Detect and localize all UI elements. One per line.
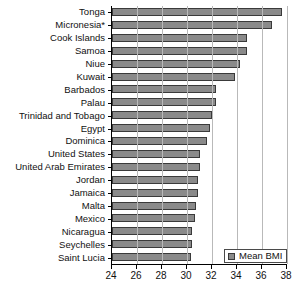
axis-tick	[108, 219, 112, 220]
value-axis-tick-label: 32	[205, 270, 216, 281]
bar-row	[112, 200, 287, 213]
bar-row	[112, 45, 287, 58]
bar	[112, 124, 210, 132]
category-label: Jordan	[76, 175, 105, 185]
bar	[112, 214, 195, 222]
axis-tick	[108, 180, 112, 181]
bar-row	[112, 212, 287, 225]
bar	[112, 189, 198, 197]
axis-tick	[108, 103, 112, 104]
axis-tick	[108, 25, 112, 26]
gridline	[287, 6, 288, 264]
chart-footnote	[2, 291, 292, 300]
bar	[112, 73, 235, 81]
bar-rows	[112, 6, 287, 264]
category-label: Barbados	[64, 85, 105, 95]
axis-tick	[108, 90, 112, 91]
category-label: Nicaragua	[62, 227, 105, 237]
bmi-bar-chart: TongaMicronesia*Cook IslandsSamoaNiueKuw…	[0, 0, 296, 300]
bar	[112, 253, 191, 261]
axis-tick	[108, 12, 112, 13]
bar	[112, 240, 192, 248]
value-axis-tick-label: 24	[105, 270, 116, 281]
bar-row	[112, 32, 287, 45]
value-axis: 2426283032343638	[111, 265, 286, 285]
legend-label: Mean BMI	[239, 251, 282, 261]
axis-tick	[108, 77, 112, 78]
value-axis-tick	[286, 265, 287, 269]
bar-row	[112, 58, 287, 71]
value-axis-tick	[136, 265, 137, 269]
category-label: Mexico	[75, 214, 105, 224]
category-label: Seychelles	[59, 240, 105, 250]
axis-tick	[108, 38, 112, 39]
category-label: Palau	[81, 98, 105, 108]
bar	[112, 202, 196, 210]
bar-row	[112, 135, 287, 148]
value-axis-tick-label: 30	[180, 270, 191, 281]
bar	[112, 98, 216, 106]
category-label: United States	[48, 149, 105, 159]
axis-tick	[108, 245, 112, 246]
bar-row	[112, 6, 287, 19]
value-axis-tick	[211, 265, 212, 269]
axis-tick	[108, 116, 112, 117]
gridline	[262, 6, 263, 264]
bar-row	[112, 161, 287, 174]
axis-tick	[108, 154, 112, 155]
bar-row	[112, 187, 287, 200]
category-label: Malta	[82, 201, 105, 211]
legend-swatch-icon	[228, 253, 235, 260]
bar-row	[112, 109, 287, 122]
bar	[112, 60, 240, 68]
axis-tick	[108, 167, 112, 168]
bar	[112, 21, 272, 29]
axis-tick	[108, 258, 112, 259]
axis-tick	[108, 51, 112, 52]
gridline	[212, 6, 213, 264]
value-axis-tick-label: 28	[155, 270, 166, 281]
category-label: Jamaica	[70, 188, 105, 198]
bar	[112, 227, 192, 235]
bar	[112, 137, 207, 145]
value-axis-tick	[111, 265, 112, 269]
category-label: Micronesia*	[55, 20, 105, 30]
axis-tick	[108, 193, 112, 194]
category-label: Niue	[85, 59, 105, 69]
category-label: United Arab Emirates	[15, 162, 105, 172]
gridline	[237, 6, 238, 264]
value-axis-tick	[186, 265, 187, 269]
bar-row	[112, 225, 287, 238]
bar-row	[112, 83, 287, 96]
value-axis-tick-label: 36	[255, 270, 266, 281]
bar-row	[112, 174, 287, 187]
chart-legend: Mean BMI	[224, 249, 287, 263]
category-axis-labels: TongaMicronesia*Cook IslandsSamoaNiueKuw…	[0, 6, 108, 264]
value-axis-tick-label: 34	[230, 270, 241, 281]
category-label: Saint Lucia	[58, 253, 105, 263]
axis-tick	[108, 232, 112, 233]
bar	[112, 85, 216, 93]
category-label: Kuwait	[76, 72, 105, 82]
gridline	[187, 6, 188, 264]
axis-tick	[108, 141, 112, 142]
category-label: Tonga	[79, 7, 105, 17]
axis-tick	[108, 129, 112, 130]
bar-row	[112, 96, 287, 109]
gridline	[137, 6, 138, 264]
category-label: Dominica	[65, 136, 105, 146]
axis-tick	[108, 64, 112, 65]
value-axis-tick	[236, 265, 237, 269]
category-label: Egypt	[81, 124, 105, 134]
value-axis-tick-label: 38	[280, 270, 291, 281]
value-axis-tick	[261, 265, 262, 269]
bar-row	[112, 19, 287, 32]
gridline	[162, 6, 163, 264]
bar	[112, 47, 247, 55]
bar-row	[112, 148, 287, 161]
bar-row	[112, 122, 287, 135]
axis-tick	[108, 206, 112, 207]
category-label: Cook Islands	[50, 33, 105, 43]
bar-row	[112, 71, 287, 84]
bar	[112, 176, 198, 184]
